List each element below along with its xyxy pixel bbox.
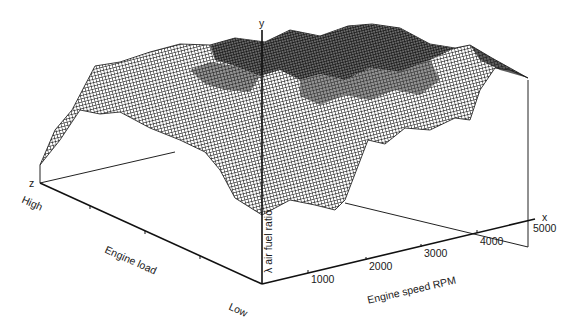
y-axis-label: λ air fuel ratio — [262, 210, 274, 273]
x-tick-3000: 3000 — [424, 247, 447, 259]
surface-plot — [0, 0, 575, 325]
z-axis-letter: z — [29, 177, 34, 189]
x-tick-2000: 2000 — [369, 260, 392, 272]
x-tick-5000: 5000 — [533, 222, 556, 234]
surface-mesh — [40, 24, 528, 215]
y-axis-letter: y — [259, 17, 264, 29]
x-tick-1000: 1000 — [311, 273, 334, 285]
x-tick-4000: 4000 — [480, 235, 503, 247]
